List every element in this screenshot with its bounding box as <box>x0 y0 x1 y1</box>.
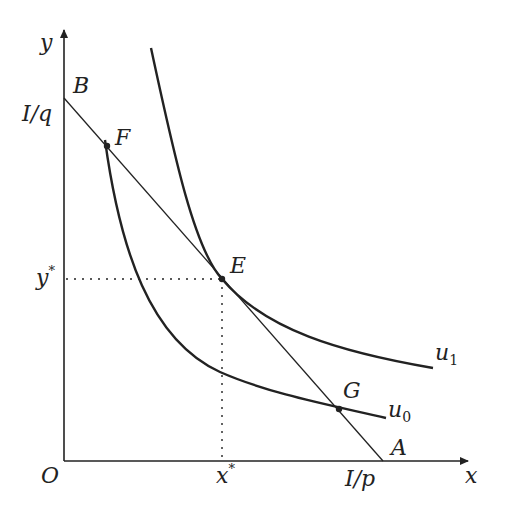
point-g-label: G <box>343 378 361 403</box>
x-star-label: x* <box>216 461 235 488</box>
point-b-label: B <box>72 73 89 98</box>
y-axis-label: y <box>39 30 53 55</box>
x-axis-label: x <box>465 463 478 488</box>
point-g <box>336 406 342 412</box>
y-star-label: y* <box>35 263 55 290</box>
origin-label: O <box>41 463 59 488</box>
point-e <box>219 276 225 282</box>
point-a-label: A <box>389 435 407 460</box>
point-f <box>104 143 110 149</box>
indifference-curve-u1 <box>151 48 433 368</box>
point-f-label: F <box>114 125 131 150</box>
i-over-p-label: I/p <box>344 466 375 491</box>
point-e-label: E <box>229 253 246 278</box>
u1-label: u1 <box>435 340 458 368</box>
indifference-curve-diagram: y x O B I/q A I/p F E G u1 u0 y* x* <box>0 0 515 524</box>
i-over-q-label: I/q <box>21 101 52 126</box>
u0-label: u0 <box>388 397 411 425</box>
